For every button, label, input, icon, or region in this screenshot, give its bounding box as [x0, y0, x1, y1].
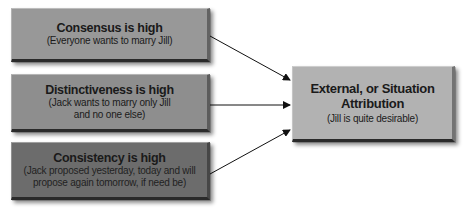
distinctiveness-title: Distinctiveness is high — [45, 83, 174, 97]
external-attribution-box: External, or Situation Attribution (Jill… — [292, 66, 455, 142]
consistency-title: Consistency is high — [53, 151, 165, 165]
distinctiveness-detail-line1: (Jack wants to marry only Jill — [49, 97, 171, 109]
consistency-box: Consistency is high (Jack proposed yeste… — [11, 142, 210, 200]
consistency-detail-line1: (Jack proposed yesterday, today and will — [24, 165, 196, 177]
arrow-consensus — [210, 36, 290, 80]
distinctiveness-box: Distinctiveness is high (Jack wants to m… — [11, 74, 210, 132]
arrow-consistency — [210, 130, 290, 174]
result-detail: (Jill is quite desirable) — [327, 113, 418, 125]
consistency-detail-line2: propose again tomorrow, if need be) — [33, 177, 186, 189]
consensus-detail: (Everyone wants to marry Jill) — [47, 35, 173, 47]
consensus-title: Consensus is high — [56, 21, 162, 35]
result-title-line1: External, or Situation — [310, 81, 434, 96]
consensus-box: Consensus is high (Everyone wants to mar… — [11, 8, 210, 62]
result-title-line2: Attribution — [341, 96, 404, 111]
distinctiveness-detail-line2: and no one else) — [74, 109, 145, 121]
